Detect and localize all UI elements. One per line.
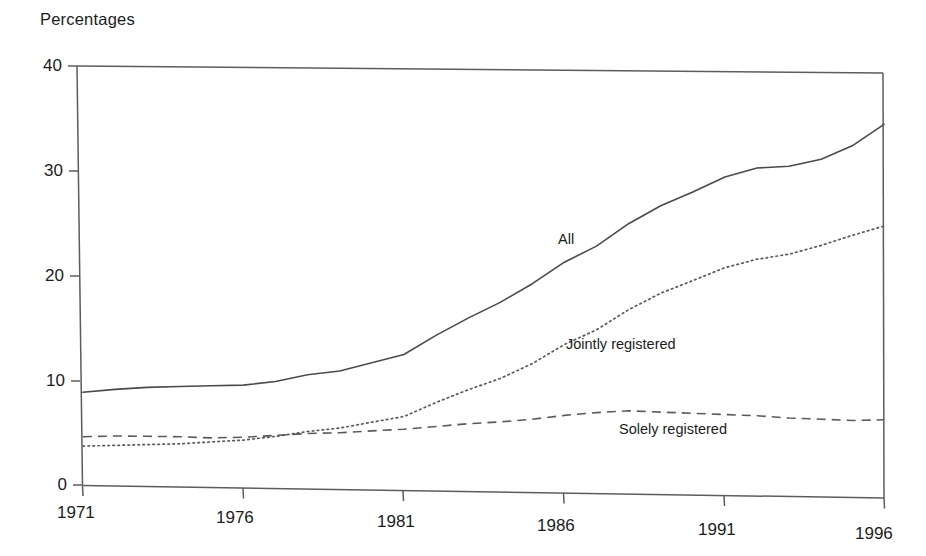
series-label-jointly-registered: Jointly registered (566, 336, 676, 352)
series-line-solely-registered (83, 411, 884, 438)
x-axis-label-1976: 1976 (216, 508, 254, 528)
x-axis-label-1996: 1996 (855, 524, 893, 544)
x-axis-label-1986: 1986 (537, 516, 575, 536)
y-axis-label-10: 10 (21, 371, 65, 391)
x-tick-1991 (724, 496, 725, 507)
x-tick-1996 (884, 498, 885, 509)
y-axis-label-20: 20 (20, 266, 64, 286)
x-axis-label-1981: 1981 (377, 512, 415, 532)
x-axis-label-1971: 1971 (57, 503, 95, 523)
series-line-all (83, 124, 884, 392)
chart-axes (77, 66, 884, 498)
axis-top-spine (77, 66, 883, 73)
x-axis-label-1991: 1991 (698, 520, 736, 540)
chart-plot-area (0, 0, 926, 556)
series-label-solely-registered: Solely registered (619, 421, 727, 437)
x-tick-1986 (564, 493, 565, 504)
series-label-all: All (558, 231, 574, 247)
x-tick-1976 (243, 488, 244, 499)
x-axis-ticks (83, 486, 885, 509)
y-axis-label-40: 40 (18, 56, 62, 76)
chart-container: Percentages ) 40 30 20 1 (0, 0, 926, 556)
x-tick-1971 (83, 486, 84, 497)
y-axis-label-30: 30 (19, 161, 63, 181)
series-line-jointly-registered (83, 226, 884, 446)
axis-right-spine (883, 73, 884, 498)
y-axis-label-0: 0 (23, 475, 67, 495)
x-tick-1981 (403, 491, 404, 502)
axis-bottom-spine (83, 486, 885, 499)
